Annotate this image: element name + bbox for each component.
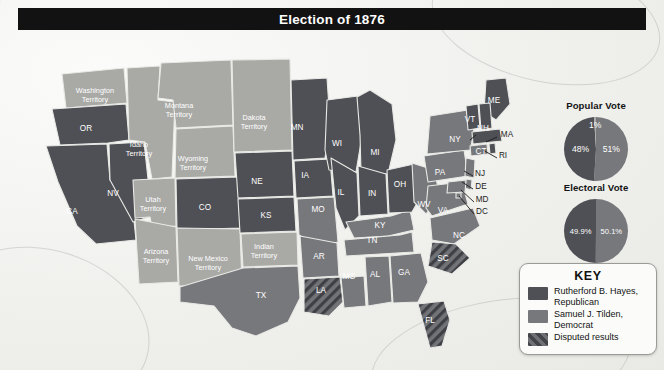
map-label-ma: MA: [501, 130, 514, 139]
map-state-mi[interactable]: [357, 90, 396, 174]
map-label-mo: MO: [311, 205, 324, 214]
map-label-it: IndianTerritory: [251, 242, 278, 260]
map-state-ga[interactable]: [390, 253, 428, 303]
electoral-vote-label-1: 49.9%: [570, 227, 592, 236]
map-label-wv: WV: [417, 200, 431, 209]
map-label-ny: NY: [449, 135, 461, 144]
popular-vote-label-0: 51%: [603, 144, 621, 154]
map-label-nv: NV: [107, 189, 119, 198]
map-label-ri: RI: [499, 151, 507, 160]
map-label-ar: AR: [313, 252, 324, 261]
map-label-va: VA: [438, 206, 449, 215]
map-state-ri[interactable]: [489, 143, 496, 154]
map-label-ga: GA: [398, 268, 410, 277]
map-label-tn: TN: [367, 236, 378, 245]
map-label-fl: FL: [425, 316, 435, 325]
map-label-ms: MS: [343, 272, 356, 281]
key-swatch-hayes: [528, 287, 548, 300]
map-label-az: ArizonaTerritory: [143, 247, 170, 265]
map-label-or: OR: [80, 124, 92, 133]
map-label-sc: SC: [437, 254, 448, 263]
map-state-al[interactable]: [365, 256, 392, 306]
key-item-2[interactable]: Disputed results: [528, 332, 648, 346]
map-key: KEY Rutherford B. Hayes, RepublicanSamue…: [519, 263, 657, 355]
map-state-dt[interactable]: [232, 59, 292, 152]
map-label-ct: CT: [476, 147, 487, 156]
popular-vote-label-2: 1%: [589, 120, 602, 130]
map-state-wi[interactable]: [325, 96, 361, 172]
map-state-ia[interactable]: [294, 159, 333, 198]
map-label-pa: PA: [435, 168, 446, 177]
map-label-nj: NJ: [475, 169, 485, 178]
map-state-mn[interactable]: [291, 78, 330, 160]
map-label-mi: MI: [370, 148, 379, 157]
key-item-0[interactable]: Rutherford B. Hayes, Republican: [528, 286, 648, 307]
map-label-md: MD: [476, 195, 489, 204]
map-state-la[interactable]: [304, 277, 343, 316]
map-label-ne: NE: [251, 177, 263, 186]
map-label-ks: KS: [261, 211, 272, 220]
map-label-nh: NH: [477, 124, 489, 133]
key-title: KEY: [528, 269, 648, 283]
map-label-ca: CA: [66, 207, 78, 216]
key-swatch-disputed: [528, 333, 548, 346]
map-label-co: CO: [199, 203, 211, 212]
map-label-al: AL: [370, 270, 380, 279]
map-state-pa[interactable]: [424, 150, 468, 182]
map-label-in: IN: [368, 189, 376, 198]
map-label-ia: IA: [301, 171, 309, 180]
map-state-ne[interactable]: [235, 151, 294, 198]
map-label-vt: VT: [465, 115, 475, 124]
map-state-nj[interactable]: [465, 158, 475, 178]
map-state-md[interactable]: [447, 180, 466, 193]
electoral-vote-title: Electoral Vote: [546, 182, 646, 193]
map-label-de: DE: [475, 182, 487, 191]
map-label-mn: MN: [291, 123, 304, 132]
key-item-1[interactable]: Samuel J. Tilden, Democrat: [528, 309, 648, 330]
map-label-wy: WyomingTerritory: [178, 154, 208, 172]
map-label-oh: OH: [394, 180, 406, 189]
map-label-nc: NC: [453, 231, 465, 240]
map-label-me: ME: [488, 96, 501, 105]
key-swatch-tilden: [528, 310, 548, 323]
map-label-dc: DC: [476, 207, 488, 216]
key-label-2: Disputed results: [554, 332, 619, 343]
popular-vote-label-1: 48%: [572, 144, 590, 154]
map-state-sc[interactable]: [428, 242, 470, 274]
election-map: WashingtonTerritoryORCANVIdahoTerritoryM…: [0, 30, 530, 370]
electoral-vote-label-0: 50.1%: [601, 227, 623, 236]
map-title-bar: Election of 1876: [18, 8, 646, 30]
popular-vote-title: Popular Vote: [546, 100, 646, 111]
map-label-ky: KY: [375, 221, 386, 230]
popular-vote-chart: Popular Vote 51%48%1%: [546, 100, 646, 190]
map-label-tx: TX: [256, 291, 267, 300]
page-title: Election of 1876: [279, 12, 385, 27]
electoral-vote-chart: Electoral Vote 50.1%49.9%: [546, 182, 646, 272]
key-label-0: Rutherford B. Hayes, Republican: [554, 286, 648, 307]
map-label-dt: DakotaTerritory: [241, 113, 268, 131]
map-label-wi: WI: [332, 139, 342, 148]
key-label-1: Samuel J. Tilden, Democrat: [554, 309, 648, 330]
map-label-il: IL: [338, 188, 345, 197]
map-label-mt: MontanaTerritory: [165, 101, 194, 119]
map-label-la: LA: [316, 286, 327, 295]
